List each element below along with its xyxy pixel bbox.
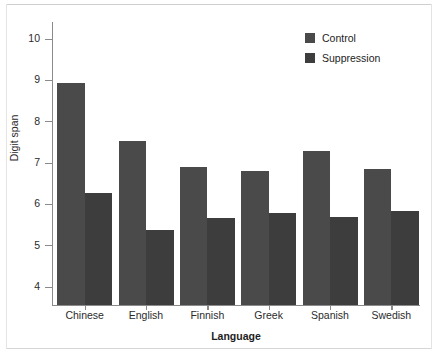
bar-control-english [119, 141, 147, 305]
bar-control-spanish [303, 151, 331, 305]
bar-suppression-greek [269, 213, 297, 305]
legend-item-control[interactable]: Control [305, 33, 425, 44]
y-tick-mark [45, 287, 52, 288]
y-tick-mark [45, 121, 52, 122]
legend-item-suppression[interactable]: Suppression [305, 53, 425, 64]
bar-control-greek [241, 171, 269, 305]
legend-label: Control [322, 33, 356, 44]
bar-suppression-chinese [85, 193, 113, 305]
y-tick-mark [45, 39, 52, 40]
figure-border-top [6, 4, 432, 5]
bar-control-finnish [180, 167, 208, 305]
y-tick-label: 4 [16, 281, 40, 292]
chart-legend: ControlSuppression [305, 33, 425, 72]
y-tick-mark [45, 204, 52, 205]
y-tick-label: 5 [16, 240, 40, 251]
y-tick-label: 10 [16, 33, 40, 44]
bar-control-chinese [57, 83, 85, 305]
y-tick-label: 6 [16, 198, 40, 209]
x-axis-title: Language [52, 330, 420, 342]
figure-border-left [6, 4, 7, 349]
legend-label: Suppression [322, 53, 380, 64]
x-axis-line [52, 305, 420, 306]
y-tick-mark [45, 163, 52, 164]
bar-suppression-english [146, 230, 174, 305]
figure-border-right [431, 4, 432, 349]
bar-control-swedish [364, 169, 392, 305]
bar-suppression-spanish [330, 217, 358, 305]
y-tick-mark [45, 80, 52, 81]
figure-border-bottom [6, 348, 432, 349]
category-label-swedish: Swedish [351, 309, 431, 321]
y-tick-mark [45, 245, 52, 246]
y-axis-title: Digit span [8, 78, 20, 198]
figure-canvas: 45678910 Digit span ChineseEnglishFinnis… [0, 0, 438, 357]
legend-swatch-icon [305, 33, 315, 43]
bar-suppression-finnish [207, 218, 235, 305]
bar-suppression-swedish [391, 211, 419, 305]
legend-swatch-icon [305, 53, 315, 63]
